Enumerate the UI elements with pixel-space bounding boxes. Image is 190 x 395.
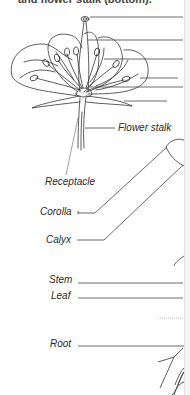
- label-root: Root: [50, 338, 71, 350]
- label-leaf: Leaf: [51, 290, 70, 302]
- label-corolla: Corolla: [40, 206, 72, 218]
- page-edge-divider: [184, 0, 190, 395]
- label-stem: Stem: [49, 274, 72, 286]
- label-calyx: Calyx: [46, 234, 71, 246]
- label-flower-stalk: Flower stalk: [118, 122, 171, 134]
- flower-diagram: and flower stalk (bottom).: [0, 0, 190, 395]
- flower-illustration: [0, 0, 190, 395]
- label-receptacle: Receptacle: [45, 176, 95, 188]
